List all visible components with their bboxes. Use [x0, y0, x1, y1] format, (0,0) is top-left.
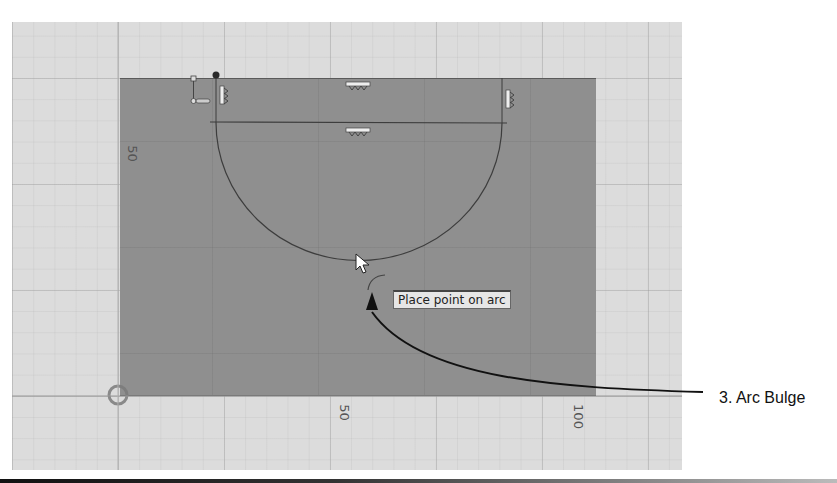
- y-dimension-label: 50: [125, 145, 140, 162]
- horizontal-constraint-icon[interactable]: [346, 82, 370, 90]
- arrow-cursor-icon: [356, 254, 369, 273]
- horizontal-constraint-icon[interactable]: [346, 128, 370, 136]
- callout-label: 3. Arc Bulge: [719, 389, 805, 407]
- bottom-border-strip: [0, 479, 837, 483]
- arc-diameter-line[interactable]: [210, 122, 507, 123]
- x-dimension-label-mid: 50: [337, 404, 352, 421]
- vertical-constraint-icon[interactable]: [220, 86, 228, 104]
- x-dimension-label-end: 100: [571, 404, 586, 429]
- sketch-point-icon[interactable]: [213, 72, 220, 79]
- sketch-arc[interactable]: [216, 122, 502, 261]
- sketch-geometry-overlay: [0, 0, 837, 483]
- cursor-tooltip: Place point on arc: [393, 290, 511, 309]
- coincident-constraint-icon[interactable]: [191, 76, 210, 104]
- arc-snap-icon: [368, 275, 385, 290]
- vertical-constraint-icon[interactable]: [506, 90, 514, 108]
